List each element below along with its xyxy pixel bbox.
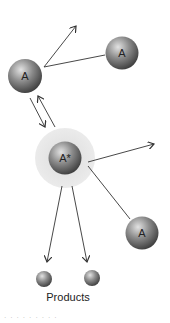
arrow-astar-product2 xyxy=(72,186,87,262)
arrow-astar-product1 xyxy=(47,186,62,262)
molecule-a1: A xyxy=(8,59,42,93)
molecule-astar: A* xyxy=(49,142,82,175)
products-label: Products xyxy=(0,291,136,303)
molecule-a2: A xyxy=(106,37,139,70)
arrow-a1-scatter xyxy=(44,26,76,67)
diagram-canvas: A A A* A xyxy=(0,0,170,323)
footer-text-fragment: · · · · · · · · · xyxy=(4,314,58,321)
arrow-astar-to-a1 xyxy=(38,96,55,127)
line-a1-a2 xyxy=(44,55,105,67)
product-sphere-2 xyxy=(84,270,100,286)
molecule-astar-label: A* xyxy=(59,152,71,164)
arrow-a1-to-astar xyxy=(30,98,45,127)
molecule-a3: A xyxy=(126,217,159,250)
product-sphere-1 xyxy=(36,271,52,287)
molecule-a3-label: A xyxy=(138,227,146,239)
line-astar-a3 xyxy=(88,166,130,219)
arrow-astar-scatter xyxy=(88,144,154,162)
molecule-a1-label: A xyxy=(21,70,29,82)
molecule-a2-label: A xyxy=(118,47,126,59)
